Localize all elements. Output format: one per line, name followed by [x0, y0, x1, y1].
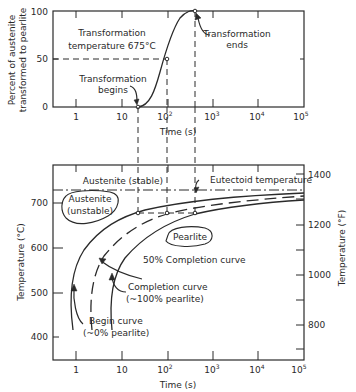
top-xlabel: Time (s) [159, 127, 197, 137]
ytick-500C: 500 [31, 288, 48, 298]
svg-text:103: 103 [204, 110, 219, 122]
svg-text:1: 1 [73, 365, 79, 375]
ytick-400C: 400 [31, 332, 48, 342]
top-ylabel-line2: transformed to pearlite [18, 7, 28, 112]
svg-text:104: 104 [249, 363, 264, 375]
svg-text:10: 10 [116, 112, 128, 122]
svg-text:105: 105 [293, 110, 308, 122]
annotation-begins-line2: begins [98, 85, 128, 95]
top-ytick-100: 100 [31, 7, 48, 17]
ytick-800F: 800 [308, 320, 325, 330]
bottom-xlabel: Time (s) [159, 380, 197, 390]
top-x-ticks: 1 10 102 103 104 105 [73, 110, 309, 122]
bottom-x-ticks: 1 10 102 103 104 105 [73, 363, 307, 375]
top-ytick-0: 0 [42, 102, 48, 112]
annotation-temperature-line2: temperature 675°C [68, 41, 155, 51]
label-pearlite: Pearlite [173, 232, 207, 242]
ytick-700C: 700 [31, 198, 48, 208]
annotation-ends-line1: Transformation [202, 29, 271, 39]
ttt-diagram-figure: 100 50 0 1 10 102 103 104 105 Time (s) P… [0, 0, 356, 392]
label-fifty-percent-curve: 50% Completion curve [143, 255, 246, 265]
label-completion-line2: (~100% pearlite) [126, 294, 204, 304]
end-point [193, 9, 197, 13]
ytick-600C: 600 [31, 243, 48, 253]
top-plot-frame [53, 11, 304, 107]
fifty-point [165, 57, 169, 61]
label-begin-line2: (~0% pearlite) [83, 328, 149, 338]
svg-text:102: 102 [157, 110, 172, 122]
svg-text:105: 105 [291, 363, 306, 375]
top-ylabel-line1: Percent of austenite [7, 14, 17, 105]
label-eutectoid: Eutectoid temperature [210, 175, 313, 185]
top-ytick-50: 50 [37, 54, 49, 64]
ylabel-celsius: Temperature (°C) [16, 223, 26, 302]
svg-text:102: 102 [157, 363, 172, 375]
begin-arrow-icon [74, 288, 83, 324]
diagram-canvas: 100 50 0 1 10 102 103 104 105 Time (s) P… [0, 0, 356, 392]
svg-text:1: 1 [73, 112, 79, 122]
ylabel-fahrenheit: Temperature (°F) [337, 210, 347, 288]
label-austenite-unstable-line2: (unstable) [67, 206, 113, 216]
annotation-temperature-line1: Transformation [77, 28, 146, 38]
annotation-ends-line2: ends [226, 40, 248, 50]
ytick-1000F: 1000 [308, 270, 331, 280]
label-austenite-unstable-line1: Austenite [69, 194, 112, 204]
connector-lines [138, 107, 195, 213]
ytick-1200F: 1200 [308, 220, 331, 230]
svg-text:10: 10 [116, 365, 128, 375]
label-austenite-stable: Austenite (stable) [83, 176, 163, 186]
label-completion-line1: Completion curve [128, 282, 208, 292]
svg-text:103: 103 [204, 363, 219, 375]
top-plot [53, 9, 304, 109]
annotation-begins-line1: Transformation [78, 74, 147, 84]
svg-text:104: 104 [249, 110, 264, 122]
completion-curve [111, 200, 304, 330]
label-begin-line1: Begin curve [89, 316, 143, 326]
